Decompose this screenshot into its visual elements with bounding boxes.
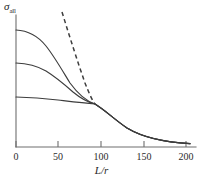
y-axis-subscript: all: [9, 7, 15, 15]
buckling-stress-chart: 0 50 100 150 200 L/r σall: [0, 0, 203, 184]
x-tick-label-0: 0: [6, 152, 26, 162]
x-tick-label-150: 150: [131, 152, 157, 162]
x-tick-label-200: 200: [173, 152, 199, 162]
x-tick-label-100: 100: [88, 152, 114, 162]
curve-johnson-low: [16, 97, 190, 144]
curve-johnson-high: [16, 30, 190, 144]
y-axis-title: σall: [4, 1, 16, 15]
curve-euler-dashed: [62, 12, 95, 104]
x-axis-title: L/r: [0, 165, 203, 176]
curve-johnson-mid: [16, 63, 190, 144]
x-tick-label-50: 50: [48, 152, 68, 162]
